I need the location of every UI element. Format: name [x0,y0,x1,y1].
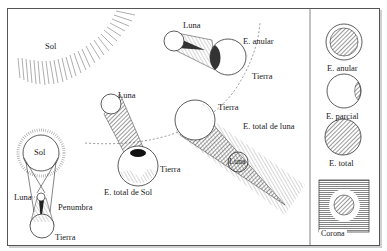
label-earth-annular: Tierra [252,72,272,81]
corona-inset [319,180,369,232]
eclipse-diagram [0,0,387,251]
label-sun-large: Sol [45,42,56,51]
moon-left [37,193,45,201]
corona-label: Corona [319,230,347,239]
label-moon-center: Luna [118,91,135,100]
label-earth-center: Tierra [160,165,180,174]
label-total-solar: E. total de Sol [104,188,152,197]
legend-label-annular: E. anular [327,64,358,73]
legend-label-partial: E. parcial [326,112,359,121]
legend-annular [326,24,362,60]
sun-rays-large [18,11,145,85]
moon-annular [164,31,184,51]
legend-total [325,119,361,155]
earth-lunar [175,100,215,140]
label-earth-lunar: Tierra [218,103,238,112]
label-sun-small: Sol [34,148,45,157]
legend-label-total: E. total [329,159,354,168]
label-earth-left: Tierra [55,233,75,242]
label-penumbra: Penumbra [58,203,92,212]
annular-eclipse [164,31,248,75]
label-total-lunar: E. total de luna [243,122,294,131]
label-moon-in-shadow: Luna [229,158,245,166]
legend-partial [327,74,361,108]
label-annular: E. anular [243,37,274,46]
label-moon-annular: Luna [183,21,200,30]
label-moon-left: Luna [14,193,31,202]
earth-left [30,214,54,238]
